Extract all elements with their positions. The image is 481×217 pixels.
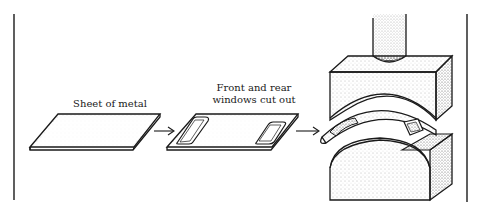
label-windows-line2: windows cut out <box>208 94 300 106</box>
diagram-canvas: Sheet of metal Front and rear windows cu… <box>0 0 481 217</box>
metal-sheet <box>30 114 160 150</box>
arrow-1 <box>154 127 174 135</box>
arrow-2 <box>296 127 319 135</box>
lower-die <box>330 134 452 200</box>
sheet-with-windows <box>167 114 298 150</box>
label-windows-line1: Front and rear <box>208 82 300 94</box>
press-assembly <box>321 14 452 200</box>
label-sheet-of-metal: Sheet of metal <box>70 98 150 110</box>
press-ram <box>373 14 406 61</box>
upper-die <box>330 56 452 120</box>
